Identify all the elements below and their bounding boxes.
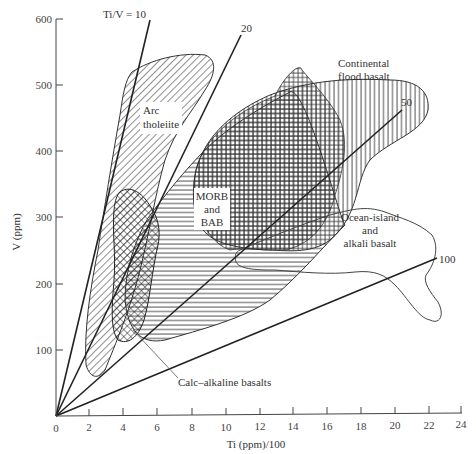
svg-text:10: 10 [221, 421, 233, 433]
x-axis-title: Ti (ppm)/100 [227, 438, 286, 451]
svg-text:200: 200 [36, 278, 53, 290]
svg-text:2: 2 [86, 421, 92, 433]
svg-text:22: 22 [424, 419, 435, 431]
svg-text:0: 0 [53, 422, 59, 434]
ratio-label-20: 20 [241, 22, 253, 34]
ti-v-discrimination-diagram: 600 500 400 300 200 100 0 2 4 6 8 10 12 … [0, 0, 476, 454]
y-ticks [56, 19, 63, 350]
svg-text:12: 12 [255, 420, 266, 432]
label-oib-3: alkali basalt [344, 237, 397, 249]
svg-text:300: 300 [36, 211, 53, 223]
label-arc-2: tholeiite [143, 118, 179, 130]
svg-text:6: 6 [154, 421, 160, 433]
label-oib-2: and [362, 224, 378, 236]
svg-text:500: 500 [36, 79, 53, 91]
svg-text:8: 8 [189, 421, 195, 433]
y-tick-labels: 600 500 400 300 200 100 [36, 13, 53, 356]
label-morb-2: and [204, 203, 220, 215]
label-morb-3: BAB [201, 216, 224, 228]
svg-text:18: 18 [356, 420, 368, 432]
svg-text:24: 24 [456, 418, 468, 430]
y-axis-title: V (ppm) [10, 213, 23, 251]
svg-text:600: 600 [36, 13, 53, 25]
ratio-label-100: 100 [439, 253, 456, 265]
svg-text:4: 4 [120, 421, 126, 433]
x-tick-labels: 0 2 4 6 8 10 12 14 16 18 20 22 24 [53, 418, 467, 434]
svg-text:100: 100 [36, 344, 53, 356]
label-arc-1: Arc [143, 104, 160, 116]
svg-text:14: 14 [288, 420, 300, 432]
x-axis [56, 413, 462, 416]
svg-text:16: 16 [322, 420, 334, 432]
svg-text:400: 400 [36, 145, 53, 157]
label-morb-1: MORB [196, 190, 228, 202]
label-oib-1: Ocean-island [341, 211, 400, 223]
ratio-label-10: Ti/V = 10 [103, 8, 146, 20]
label-calc-alkaline: Calc–alkaline basalts [178, 376, 271, 388]
svg-text:20: 20 [390, 419, 402, 431]
label-cfb-1: Continental [338, 57, 389, 69]
label-cfb-2: flood basalt [338, 70, 390, 82]
ratio-label-50: 50 [401, 96, 413, 108]
